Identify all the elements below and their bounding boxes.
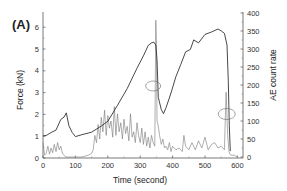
y-right-tick-label: 200 [247,81,260,90]
x-tick-label: 500 [199,161,212,170]
x-tick-label: 100 [69,161,82,170]
chart: 0123456050100150200250300350400010020030… [0,0,287,191]
force-series [43,29,230,151]
y-right-tick-label: 400 [247,9,260,18]
ae-count-rate-line [43,20,237,157]
y-right-tick-label: 350 [247,27,260,36]
y-axis-left-title: Force (kN) [15,70,25,110]
y-right-tick-label: 100 [247,117,260,126]
x-tick-label: 200 [102,161,115,170]
y-right-tick-label: 0 [247,153,251,162]
ae-count-rate-series [43,20,237,157]
y-left-tick-label: 1 [35,132,39,141]
panel-label: (A) [12,17,30,32]
y-left-tick-label: 3 [35,88,39,97]
y-left-tick-label: 0 [35,154,39,163]
figure: (A) 012345605010015020025030035040001002… [0,0,287,191]
y-axis-right-title: AE count rate [268,49,278,101]
y-right-tick-label: 150 [247,99,260,108]
x-tick-label: 400 [166,161,179,170]
y-right-tick-label: 50 [247,135,255,144]
x-tick-label: 600 [231,161,244,170]
y-left-tick-label: 6 [35,23,39,32]
y-right-tick-label: 250 [247,63,260,72]
x-tick-label: 300 [134,161,147,170]
y-left-tick-label: 2 [35,110,39,119]
force-line [43,29,230,151]
x-tick-label: 0 [41,161,45,170]
y-right-tick-label: 300 [247,45,260,54]
x-axis-title: Time (second) [113,175,167,185]
y-left-tick-label: 4 [35,66,39,75]
y-left-tick-label: 5 [35,45,39,54]
annotation-ellipse-force-drop [146,81,161,91]
